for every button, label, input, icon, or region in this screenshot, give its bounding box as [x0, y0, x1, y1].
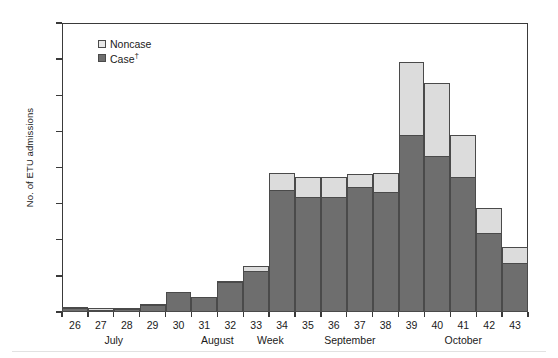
legend-case-dagger: †	[135, 51, 139, 60]
x-tick-mark	[217, 312, 218, 317]
x-tick-mark	[191, 312, 192, 317]
bar-week-29	[140, 306, 166, 313]
legend-swatch-case-icon	[98, 54, 106, 62]
bar-segment-noncase	[62, 307, 88, 309]
bar-segment-noncase	[114, 308, 140, 310]
bar-segment-noncase	[450, 135, 476, 178]
bar-week-37	[347, 175, 373, 312]
legend-label-noncase: Noncase	[110, 38, 151, 50]
x-tick-mark	[165, 312, 166, 317]
bar-segment-case	[450, 177, 476, 312]
month-label-october: October	[418, 334, 508, 346]
bar-segment-case	[502, 263, 528, 312]
x-tick-mark	[87, 312, 88, 317]
bar-week-43	[502, 248, 528, 312]
bar-segment-case	[321, 197, 347, 312]
bar-segment-case	[476, 233, 502, 312]
x-axis-word-week: Week	[240, 334, 300, 346]
bar-segment-noncase	[424, 83, 450, 156]
x-tick-label: 43	[495, 319, 535, 331]
bar-segment-noncase	[347, 174, 373, 188]
bar-segment-case	[373, 192, 399, 312]
bar-segment-noncase	[399, 62, 425, 137]
x-tick-mark	[243, 312, 244, 317]
bar-segment-case	[166, 292, 192, 312]
legend-case-text: Case	[110, 52, 135, 64]
x-tick-mark	[450, 312, 451, 317]
bar-segment-case	[295, 197, 321, 312]
bar-segment-noncase	[321, 177, 347, 198]
x-tick-mark	[113, 312, 114, 317]
bar-segment-noncase	[295, 177, 321, 198]
x-tick-mark	[527, 312, 528, 317]
bar-week-35	[295, 178, 321, 312]
bar-week-40	[424, 84, 450, 312]
legend-label-case: Case†	[110, 51, 139, 65]
bar-segment-case	[140, 305, 166, 312]
bar-week-28	[114, 309, 140, 312]
legend-item-case: Case†	[98, 51, 151, 64]
month-label-july: July	[69, 334, 159, 346]
bar-segment-case	[269, 190, 295, 312]
bar-week-41	[450, 136, 476, 312]
bar-segment-noncase	[476, 208, 502, 234]
x-tick-mark	[268, 312, 269, 317]
scan-artifact-rule	[12, 351, 546, 352]
x-tick-mark	[476, 312, 477, 317]
bar-week-27	[88, 309, 114, 312]
bar-segment-case	[243, 271, 269, 312]
bar-week-33	[243, 267, 269, 312]
month-label-september: September	[305, 334, 395, 346]
bar-segment-noncase	[269, 173, 295, 191]
x-tick-mark	[294, 312, 295, 317]
x-tick-mark	[139, 312, 140, 317]
chart-figure: No. of ETU admissions 400350300250200150…	[0, 0, 558, 358]
chart-legend: Noncase Case†	[98, 37, 151, 65]
y-axis-title: No. of ETU admissions	[24, 58, 35, 258]
bar-segment-noncase	[140, 304, 166, 306]
bar-week-31	[191, 298, 217, 312]
bar-segment-noncase	[502, 247, 528, 263]
x-tick-mark	[398, 312, 399, 317]
x-tick-mark	[424, 312, 425, 317]
bar-segment-noncase	[373, 173, 399, 193]
x-tick-mark	[61, 312, 62, 317]
bar-week-42	[476, 209, 502, 312]
bar-week-34	[269, 174, 295, 312]
bar-week-26	[62, 308, 88, 312]
bar-week-32	[217, 282, 243, 312]
bar-series-group	[62, 23, 528, 312]
bar-segment-noncase	[88, 308, 114, 310]
bar-week-38	[373, 174, 399, 312]
bar-segment-case	[217, 282, 243, 312]
bar-week-36	[321, 178, 347, 312]
bar-week-30	[166, 293, 192, 312]
x-tick-mark	[501, 312, 502, 317]
legend-item-noncase: Noncase	[98, 37, 151, 50]
bar-segment-case	[424, 156, 450, 312]
bar-segment-case	[191, 297, 217, 312]
legend-swatch-noncase-icon	[98, 40, 106, 48]
bar-segment-case	[347, 187, 373, 312]
bar-segment-case	[399, 135, 425, 312]
bar-week-39	[399, 63, 425, 312]
x-tick-mark	[372, 312, 373, 317]
x-tick-mark	[320, 312, 321, 317]
x-tick-mark	[346, 312, 347, 317]
bar-segment-noncase	[217, 281, 243, 283]
bar-segment-noncase	[243, 266, 269, 272]
